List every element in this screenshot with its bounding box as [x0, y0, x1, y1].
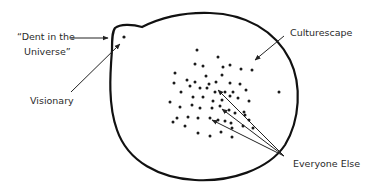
person-dot	[189, 85, 192, 88]
person-dot	[202, 65, 205, 68]
person-dot	[229, 64, 232, 67]
person-dot	[219, 105, 222, 108]
person-dot	[240, 68, 243, 71]
person-dot	[224, 120, 227, 123]
dent-label-line1: “Dent in the	[17, 31, 75, 42]
person-dot	[209, 135, 212, 138]
person-dot	[187, 116, 190, 119]
person-dot	[212, 100, 215, 103]
person-dot	[278, 91, 281, 94]
person-dot	[231, 127, 234, 130]
person-dot	[228, 109, 231, 112]
person-dot	[173, 82, 176, 85]
person-dot	[215, 81, 218, 84]
person-dot	[205, 75, 208, 78]
person-dot	[220, 131, 223, 134]
everyone-else-dots	[169, 49, 281, 139]
culturescape-diagram: “Dent in the Universe” Visionary Culture…	[0, 0, 371, 194]
person-dot	[242, 125, 245, 128]
person-dot	[221, 74, 224, 77]
person-dot	[229, 82, 232, 85]
person-dot	[224, 91, 227, 94]
person-dot	[217, 119, 220, 122]
everyone-else-label: Everyone Else	[293, 158, 360, 169]
person-dot	[176, 117, 179, 120]
culturescape-arrow	[255, 36, 284, 60]
person-dot	[196, 49, 199, 52]
person-dot	[194, 81, 197, 84]
person-dot	[222, 66, 225, 69]
person-dot	[248, 119, 251, 122]
everyone-else-arrow-3	[212, 120, 284, 156]
person-dot	[243, 111, 246, 114]
person-dot	[197, 132, 200, 135]
visionary-dot	[122, 35, 125, 38]
person-dot	[209, 117, 212, 120]
person-dot	[184, 125, 187, 128]
person-dot	[237, 97, 240, 100]
person-dot	[232, 91, 235, 94]
person-dot	[217, 56, 220, 59]
person-dot	[214, 91, 217, 94]
person-dot	[251, 69, 254, 72]
person-dot	[252, 127, 255, 130]
person-dot	[208, 83, 211, 86]
person-dot	[194, 63, 197, 66]
dent-label-line2: Universe”	[24, 46, 71, 57]
person-dot	[245, 89, 248, 92]
person-dot	[186, 79, 189, 82]
person-dot	[202, 96, 205, 99]
person-dot	[229, 95, 232, 98]
everyone-else-arrow-1	[218, 90, 284, 156]
person-dot	[230, 122, 233, 125]
visionary-label: Visionary	[30, 95, 74, 106]
person-dot	[174, 72, 177, 75]
everyone-else-arrow-2	[222, 109, 284, 156]
person-dot	[211, 107, 214, 110]
person-dot	[234, 112, 237, 115]
person-dot	[199, 107, 202, 110]
person-dot	[248, 100, 251, 103]
culturescape-label: Culturescape	[290, 27, 353, 38]
person-dot	[169, 101, 172, 104]
person-dot	[239, 83, 242, 86]
person-dot	[206, 87, 209, 90]
person-dot	[221, 99, 224, 102]
person-dot	[244, 114, 247, 117]
person-dot	[197, 117, 200, 120]
person-dot	[191, 104, 194, 107]
person-dot	[179, 106, 182, 109]
person-dot	[180, 91, 183, 94]
person-dot	[199, 87, 202, 90]
visionary-arrow	[71, 44, 120, 92]
person-dot	[172, 121, 175, 124]
person-dot	[192, 96, 195, 99]
person-dot	[231, 136, 234, 139]
